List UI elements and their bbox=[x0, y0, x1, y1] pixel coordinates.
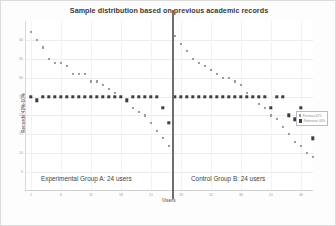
data-point bbox=[312, 156, 314, 158]
x-tick-label: 21 bbox=[149, 193, 153, 197]
group-divider-line bbox=[172, 10, 174, 199]
data-point bbox=[155, 95, 158, 98]
x-tick-label: 31 bbox=[209, 193, 213, 197]
data-point bbox=[216, 73, 218, 75]
y-tick-label: 35 bbox=[19, 57, 23, 61]
annotation-group-a: Experimental Group A: 24 users bbox=[41, 175, 132, 182]
y-tick-label: 15 bbox=[19, 132, 23, 136]
data-point bbox=[300, 145, 302, 147]
data-point bbox=[36, 39, 38, 41]
data-point bbox=[294, 141, 296, 143]
data-point bbox=[65, 95, 68, 98]
data-point bbox=[161, 106, 164, 109]
chart-container: Sample distribution based on previous ac… bbox=[0, 0, 336, 226]
x-tick-label: 16 bbox=[119, 193, 123, 197]
gridline-vertical bbox=[241, 21, 242, 191]
data-point bbox=[191, 95, 194, 98]
data-point bbox=[276, 118, 278, 120]
x-tick-label: 6 bbox=[60, 193, 62, 197]
x-tick-label: 11 bbox=[89, 193, 93, 197]
x-tick-label: 46 bbox=[299, 193, 303, 197]
data-point bbox=[281, 95, 284, 98]
data-point bbox=[251, 95, 254, 98]
data-point bbox=[228, 77, 230, 79]
data-point bbox=[78, 73, 80, 75]
data-point bbox=[113, 95, 116, 98]
data-point bbox=[29, 95, 32, 98]
data-point bbox=[41, 95, 44, 98]
data-point bbox=[167, 121, 170, 124]
legend-label: Previous 42% bbox=[303, 114, 322, 118]
y-tick-label: 20 bbox=[19, 113, 23, 117]
data-point bbox=[204, 65, 206, 67]
gridline-vertical bbox=[181, 21, 182, 191]
legend-item[interactable]: Reference 40% bbox=[299, 119, 325, 123]
data-point bbox=[221, 95, 224, 98]
data-point bbox=[197, 95, 200, 98]
data-point bbox=[119, 95, 122, 98]
data-point bbox=[89, 95, 92, 98]
data-point bbox=[60, 62, 62, 64]
data-point bbox=[257, 95, 260, 98]
x-tick-label: 1 bbox=[30, 193, 32, 197]
data-point bbox=[311, 136, 314, 139]
data-point bbox=[299, 106, 302, 109]
data-point bbox=[275, 95, 278, 98]
data-point bbox=[125, 99, 128, 102]
legend-marker-icon bbox=[299, 114, 301, 116]
gridline-vertical bbox=[91, 21, 92, 191]
gridline-vertical bbox=[31, 21, 32, 191]
data-point bbox=[114, 92, 116, 94]
x-tick-label: 26 bbox=[179, 193, 183, 197]
gridline-vertical bbox=[121, 21, 122, 191]
data-point bbox=[77, 95, 80, 98]
y-axis-line bbox=[25, 21, 26, 191]
data-point bbox=[179, 95, 182, 98]
data-point bbox=[287, 114, 290, 117]
gridline-horizontal bbox=[25, 134, 313, 135]
legend-item[interactable]: Previous 42% bbox=[299, 114, 325, 118]
x-tick-label: 36 bbox=[239, 193, 243, 197]
data-point bbox=[222, 77, 224, 79]
data-point bbox=[53, 95, 56, 98]
legend-marker-icon bbox=[299, 119, 302, 122]
data-point bbox=[30, 31, 32, 33]
data-point bbox=[156, 130, 158, 132]
data-point bbox=[149, 95, 152, 98]
y-tick-label: 30 bbox=[19, 76, 23, 80]
x-axis-label: Users bbox=[1, 198, 336, 203]
data-point bbox=[54, 62, 56, 64]
data-point bbox=[35, 99, 38, 102]
data-point bbox=[239, 95, 242, 98]
y-tick-label: 10 bbox=[19, 151, 23, 155]
data-point bbox=[144, 114, 146, 116]
data-point bbox=[203, 95, 206, 98]
gridline-vertical bbox=[151, 21, 152, 191]
data-point bbox=[102, 84, 104, 86]
data-point bbox=[168, 145, 170, 147]
data-point bbox=[227, 95, 230, 98]
data-point bbox=[234, 80, 236, 82]
data-point bbox=[162, 137, 164, 139]
data-point bbox=[269, 106, 272, 109]
data-point bbox=[215, 95, 218, 98]
data-point bbox=[240, 84, 242, 86]
y-tick-label: 5 bbox=[21, 170, 23, 174]
data-point bbox=[263, 95, 266, 98]
gridline-vertical bbox=[61, 21, 62, 191]
data-point bbox=[83, 95, 86, 98]
gridline-horizontal bbox=[25, 172, 313, 173]
data-point bbox=[180, 43, 182, 45]
gridline-horizontal bbox=[25, 59, 313, 60]
chart-title: Sample distribution based on previous ac… bbox=[1, 6, 336, 15]
gridline-horizontal bbox=[25, 153, 313, 154]
y-tick-label: 25 bbox=[19, 95, 23, 99]
data-point bbox=[95, 95, 98, 98]
data-point bbox=[137, 95, 140, 98]
data-point bbox=[72, 73, 74, 75]
data-point bbox=[108, 88, 110, 90]
data-point bbox=[185, 95, 188, 98]
data-point bbox=[264, 107, 266, 109]
data-point bbox=[150, 122, 152, 124]
x-tick-label: 41 bbox=[269, 193, 273, 197]
